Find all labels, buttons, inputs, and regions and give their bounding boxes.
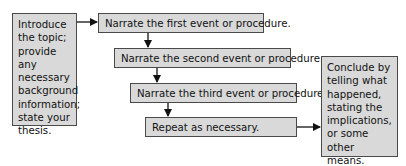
step-box-1: Narrate the first event or procedure. (98, 13, 264, 33)
intro-line: thesis. (18, 124, 71, 137)
step-label: Repeat as necessary. (152, 122, 259, 133)
step-label: Narrate the third event or procedure. (137, 88, 327, 99)
intro-line: information; (18, 98, 71, 111)
conclusion-line: implications, (327, 114, 392, 127)
step-label: Narrate the first event or procedure. (105, 18, 291, 29)
step-label: Narrate the second event or procedure. (121, 53, 323, 64)
intro-line: Introduce (18, 18, 71, 31)
step-box-2: Narrate the second event or procedure. (114, 48, 291, 68)
intro-line: the topic; (18, 31, 71, 44)
conclusion-line: telling what (327, 74, 392, 87)
intro-line: provide any (18, 45, 71, 72)
conclusion-line: stating the (327, 101, 392, 114)
intro-line: state your (18, 111, 71, 124)
intro-line: background (18, 84, 71, 97)
intro-box: Introduce the topic; provide any necessa… (12, 13, 77, 126)
intro-line: necessary (18, 71, 71, 84)
step-box-3: Narrate the third event or procedure. (130, 83, 297, 103)
conclusion-box: Conclude by telling what happened, stati… (321, 56, 398, 157)
conclusion-line: happened, (327, 88, 392, 101)
step-box-4: Repeat as necessary. (145, 117, 297, 137)
conclusion-line: Conclude by (327, 61, 392, 74)
conclusion-line: means. (327, 154, 392, 166)
conclusion-line: or some other (327, 127, 392, 154)
